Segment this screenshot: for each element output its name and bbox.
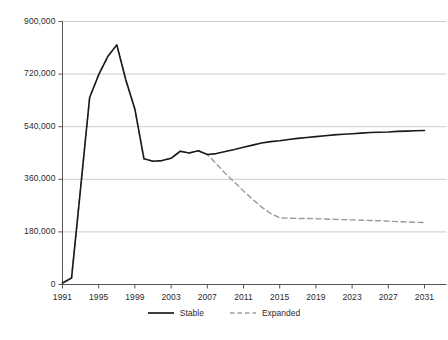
y-axis-label: 720,000 [24, 68, 55, 78]
legend-swatch-solid-icon [148, 308, 174, 318]
x-axis-label: 2015 [260, 292, 300, 302]
x-axis-label: 2031 [405, 292, 445, 302]
x-axis-label: 1991 [43, 292, 83, 302]
y-axis-label: 900,000 [24, 16, 55, 26]
legend-swatch-dashed-icon [230, 308, 256, 318]
y-axis-label: 540,000 [24, 121, 55, 131]
legend-item-expanded[interactable]: Expanded [230, 308, 300, 318]
legend-label: Expanded [262, 308, 300, 318]
legend-item-stable[interactable]: Stable [148, 308, 204, 318]
x-axis-label: 2019 [296, 292, 336, 302]
series-line-expanded [63, 45, 425, 283]
x-axis-label: 2027 [368, 292, 408, 302]
x-axis-label: 2003 [151, 292, 191, 302]
series-line-stable [63, 45, 425, 283]
x-axis-label: 2023 [332, 292, 372, 302]
x-axis-label: 2007 [187, 292, 227, 302]
y-axis-label: 180,000 [24, 226, 55, 236]
chart-legend: StableExpanded [0, 308, 448, 318]
x-axis-label: 1995 [79, 292, 119, 302]
chart-plot-area [0, 0, 448, 340]
x-axis-label: 2011 [224, 292, 264, 302]
line-chart: StableExpanded 0180,000360,000540,000720… [0, 0, 448, 340]
legend-label: Stable [180, 308, 204, 318]
x-axis-label: 1999 [115, 292, 155, 302]
y-axis-label: 360,000 [24, 173, 55, 183]
y-axis-label: 0 [51, 279, 56, 289]
